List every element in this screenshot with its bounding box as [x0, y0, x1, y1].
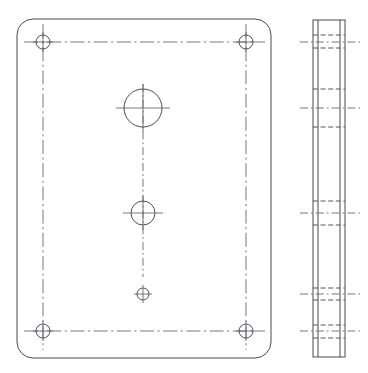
- small-center-hole: [134, 285, 152, 303]
- medium-center-hole: [123, 196, 163, 230]
- side-view: [300, 20, 360, 357]
- large-center-hole: [116, 84, 170, 132]
- front-view-plate-outline: [17, 19, 271, 358]
- engineering-drawing-canvas: [0, 0, 368, 373]
- corner-hole-top-right: [236, 32, 256, 52]
- front-view: [17, 19, 271, 358]
- corner-hole-top-left: [33, 32, 53, 52]
- corner-hole-bottom-right: [236, 321, 256, 341]
- corner-hole-bottom-left: [33, 321, 53, 341]
